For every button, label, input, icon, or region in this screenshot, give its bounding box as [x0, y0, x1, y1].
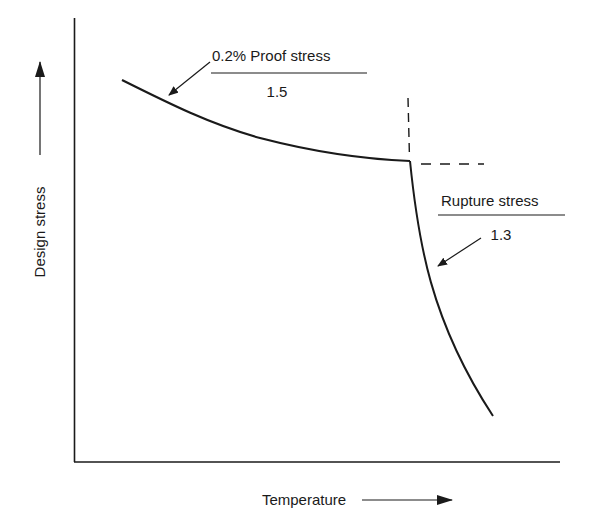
rupture-stress-denominator: 1.3 — [491, 226, 512, 243]
proof-stress-denominator: 1.5 — [267, 83, 288, 100]
design-stress-diagram: Design stress Temperature 0.2% Proof str… — [0, 0, 593, 525]
x-axis-label: Temperature — [262, 491, 346, 508]
rupture-stress-pointer-arrow-icon — [438, 238, 481, 266]
rupture-stress-numerator: Rupture stress — [441, 192, 539, 209]
proof-stress-pointer-arrow-icon — [169, 62, 210, 95]
y-axis-label: Design stress — [31, 187, 48, 278]
proof-stress-numerator: 0.2% Proof stress — [212, 47, 330, 64]
rupture-stress-dashed-extension — [408, 98, 410, 158]
